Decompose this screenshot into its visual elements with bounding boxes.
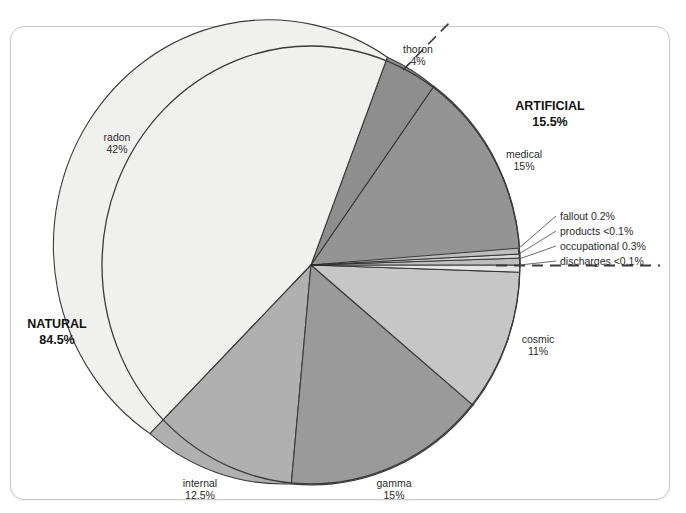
label-internal-name: internal [183,477,217,489]
label-internal-value: 12.5% [185,489,215,501]
leader-line-fallout [518,216,556,249]
label-thoron-name: thoron [403,43,433,55]
label-fallout: fallout 0.2% [560,210,615,222]
label-radon-name: radon [104,131,131,143]
leader-line-discharges [520,261,556,265]
label-discharges: discharges <0.1% [560,255,644,267]
group-label-artificial: ARTIFICIAL [515,99,585,113]
label-cosmic-value: 11% [528,345,548,357]
group-label-artificial-value: 15.5% [532,115,567,129]
label-medical-value: 15% [513,160,534,172]
label-cosmic-name: cosmic [522,333,555,345]
leader-lines [518,216,556,265]
pie-chart: radon 42% thoron 4% medical 15% cosmic 1… [0,0,686,513]
figure-root: radon 42% thoron 4% medical 15% cosmic 1… [0,0,686,513]
label-occupational: occupational 0.3% [560,240,646,252]
leader-line-products [519,231,556,254]
label-gamma-name: gamma [376,477,411,489]
leader-line-occupational [519,246,556,259]
bottom-cutoff-text [14,503,214,513]
group-label-natural-value: 84.5% [39,333,74,347]
label-thoron-value: 4% [410,55,425,67]
pie-slices [53,20,520,485]
label-radon-value: 42% [106,143,127,155]
label-gamma-value: 15% [383,489,404,501]
group-label-natural: NATURAL [27,317,87,331]
label-medical-name: medical [506,148,542,160]
label-products: products <0.1% [560,225,633,237]
